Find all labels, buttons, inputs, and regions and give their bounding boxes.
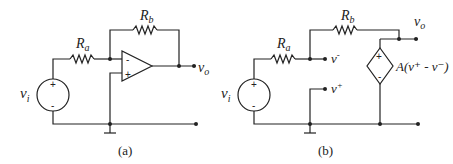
vplus-terminal <box>323 87 327 91</box>
output-label-b: vo <box>414 14 425 31</box>
figure-b-equivalent-model: + - vi Ra v- Rb vo v+ + - <box>221 8 449 158</box>
source-minus-a: - <box>51 100 54 111</box>
circuit-figure: + - vi Ra Rb - + vo (a) + - <box>0 0 453 164</box>
vminus-terminal <box>323 57 327 61</box>
rb-label-b: Rb <box>340 8 355 25</box>
caption-b: (b) <box>318 143 333 158</box>
svg-text:-: - <box>378 71 381 82</box>
svg-text:+: + <box>251 79 257 90</box>
ground-terminal-a <box>194 122 198 126</box>
resistor-ra-a <box>70 55 94 63</box>
figure-a-inverting-amplifier: + - vi Ra Rb - + vo (a) <box>20 8 209 158</box>
source-label-b: vi <box>221 85 231 104</box>
output-terminal-a <box>192 64 196 68</box>
svg-text:-: - <box>252 100 255 111</box>
caption-a: (a) <box>118 143 132 158</box>
dependent-source-label: A(v⁺ - v⁻) <box>395 59 449 74</box>
vplus-label: v+ <box>331 80 343 96</box>
resistor-rb-b <box>333 26 357 34</box>
rb-label-a: Rb <box>139 8 154 25</box>
source-plus-a: + <box>50 79 56 90</box>
source-label-a: vi <box>20 85 30 104</box>
opamp-inverting-sign: - <box>126 54 129 65</box>
output-label-a: vo <box>198 60 209 77</box>
resistor-ra-b <box>271 55 295 63</box>
resistor-rb-a <box>133 26 157 34</box>
output-terminal-b <box>414 37 418 41</box>
ra-label-a: Ra <box>75 36 90 53</box>
ra-label-b: Ra <box>276 36 291 53</box>
vminus-label: v- <box>331 50 340 66</box>
svg-text:+: + <box>376 51 382 62</box>
opamp-noninverting-sign: + <box>125 69 131 80</box>
